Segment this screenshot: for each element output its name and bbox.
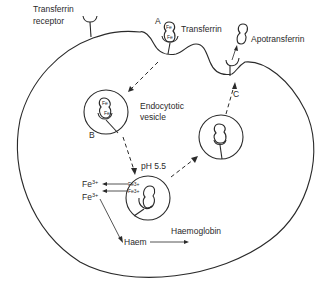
arrowhead [184, 240, 189, 244]
endocytotic-vesicle: Fe Fe [84, 90, 128, 134]
acidic-vesicle: Fe3+ Fe3+ [126, 176, 170, 220]
arrow-fe-to-haem [100, 199, 121, 240]
apotransferrin-label: Apotransferrin [251, 34, 305, 44]
arrowhead [102, 182, 107, 186]
transferrin-receptor-free [83, 16, 97, 37]
arrowhead [234, 45, 238, 51]
arrowhead [131, 168, 137, 175]
endocytotic-vesicle-label-1: Endocytotic [140, 101, 185, 111]
haemoglobin-label: Haemoglobin [171, 226, 221, 236]
fe-label: Fe [102, 100, 108, 106]
arrowhead [118, 236, 123, 243]
arrow-b-to-acidic [123, 137, 134, 170]
transferrin-cycle-diagram: Transferrin receptor A Fe Fe Transferrin… [0, 0, 329, 288]
arrowhead [232, 82, 237, 89]
transferrin-bound-receptor: Fe Fe [162, 22, 178, 54]
haem-label: Haem [124, 237, 147, 247]
fe-label: Fe [104, 110, 110, 116]
transferrin-receptor-recycled [226, 45, 239, 76]
fe3-label-1: Fe3+ [82, 179, 98, 189]
arrowhead [102, 189, 107, 193]
transferrin-receptor-label-2: receptor [33, 16, 64, 26]
step-marker-a: A [155, 16, 161, 26]
step-marker-c: C [233, 89, 239, 99]
fe3-inner-label: Fe3+ [128, 188, 140, 194]
endocytotic-vesicle-label-2: vesicle [140, 112, 166, 122]
ph-label: pH 5.5 [141, 161, 166, 171]
fe3-inner-label: Fe3+ [128, 181, 140, 187]
fe-label: Fe [167, 34, 173, 40]
arrow-a-to-b [130, 62, 158, 90]
step-marker-b: B [89, 130, 95, 140]
return-vesicle [199, 115, 243, 159]
cell-membrane [18, 31, 314, 277]
transferrin-label: Transferrin [181, 24, 222, 34]
arrowhead [191, 156, 198, 163]
fe3-label-2: Fe3+ [82, 192, 98, 202]
arrow-acidic-to-return [171, 160, 193, 177]
apotransferrin-molecule [237, 24, 247, 44]
fe-label: Fe [166, 24, 172, 30]
transferrin-receptor-label-1: Transferrin [33, 4, 74, 14]
